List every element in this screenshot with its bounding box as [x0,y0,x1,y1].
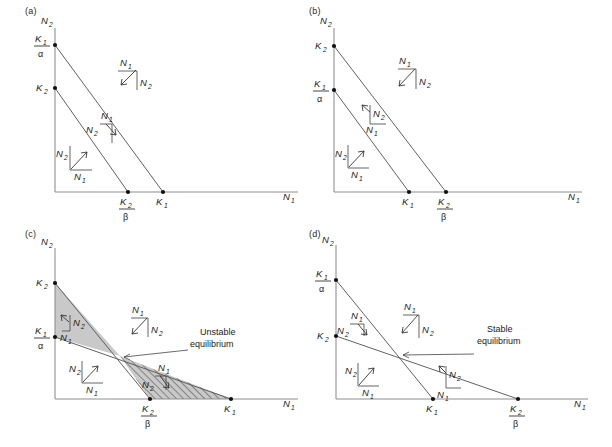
vector-widget-inside-both: N 2 N 1 [69,361,103,397]
y-axis-label: N 2 [320,15,332,28]
svg-text:K: K [510,403,517,414]
svg-text:K: K [156,196,163,207]
svg-text:K: K [317,330,324,341]
x-tick-k1: K 1 [156,196,168,209]
svg-text:1: 1 [359,316,363,323]
y-tick-k1-alpha: K 1 α [34,33,50,59]
svg-text:2: 2 [149,409,154,416]
intercept-k2-beta [148,397,152,401]
svg-text:N: N [142,379,149,390]
svg-text:N: N [335,148,342,159]
svg-text:1: 1 [374,130,378,137]
vector-widget-outside-both: N 1 N 2 [398,55,431,89]
svg-text:K: K [402,196,409,207]
svg-text:K: K [36,82,43,93]
panel-c-plot: N 2 N 1 K 2 K 1 α [0,223,306,447]
x-tick-k2-beta: K 2 β [141,403,157,429]
svg-text:2: 2 [48,21,53,28]
svg-text:N: N [86,384,93,395]
intercept-k1-alpha [332,88,336,92]
svg-text:2: 2 [93,130,98,137]
panel-a-letter: (a) [25,6,37,16]
x-tick-k2-beta: K 2 β [509,403,525,429]
x-axis-label: N 1 [283,398,295,411]
y-tick-k2: K 2 [315,40,327,53]
svg-text:N: N [86,124,93,135]
vector-widget-outside-both: N 1 N 2 [118,57,152,90]
intercept-k1 [431,397,435,401]
svg-text:2: 2 [517,409,522,416]
svg-text:2: 2 [342,154,347,161]
svg-text:2: 2 [48,242,53,249]
isocline-n1 [336,280,433,399]
svg-text:2: 2 [322,46,327,53]
svg-text:N: N [120,57,127,68]
y-tick-k1-alpha: K 1 α [34,325,50,351]
isocline-n1 [334,90,409,192]
x-axis-label: N 1 [574,398,586,411]
svg-text:β: β [145,419,150,429]
svg-text:2: 2 [158,330,163,337]
x-tick-k1: K 1 [426,403,438,416]
intercept-k2-beta [126,190,130,194]
panel-c: (c) N 2 N 1 [0,223,306,447]
svg-text:K: K [142,403,149,414]
svg-text:2: 2 [80,323,85,330]
shade-upper-wedge [55,283,120,356]
svg-text:2: 2 [344,331,349,338]
svg-text:K: K [120,196,127,207]
x-tick-k2-beta: K 2 β [119,196,135,222]
isocline-n2 [55,88,128,192]
svg-text:N: N [283,191,290,202]
svg-text:N: N [404,301,411,312]
y-axis-label: N 2 [41,236,53,249]
svg-text:N: N [419,76,426,87]
svg-text:2: 2 [149,385,154,392]
svg-text:α: α [38,49,43,59]
x-axis-label: N 1 [283,191,295,204]
svg-text:N: N [69,363,76,374]
svg-text:2: 2 [76,369,81,376]
svg-text:N: N [132,304,139,315]
svg-text:N: N [422,324,429,335]
svg-text:1: 1 [82,177,86,184]
y-axis-label: N 2 [322,234,334,247]
svg-text:2: 2 [43,88,48,95]
svg-text:2: 2 [445,202,450,209]
panel-d-letter: (d) [309,229,321,239]
x-tick-k1: K 1 [402,196,414,209]
svg-text:α: α [317,94,322,104]
y-tick-k2: K 2 [36,277,48,290]
svg-text:2: 2 [456,375,461,382]
y-tick-k2: K 2 [36,82,48,95]
svg-text:N: N [568,191,575,202]
svg-text:N: N [56,148,63,159]
svg-text:K: K [35,325,42,336]
y-tick-k1-alpha: K 1 α [313,78,329,104]
svg-text:equilibrium: equilibrium [477,336,521,346]
svg-text:1: 1 [232,409,236,416]
svg-text:2: 2 [324,336,329,343]
svg-text:N: N [437,389,444,400]
svg-text:N: N [74,171,81,182]
panel-b: (b) N 2 N 1 K 2 K [306,0,612,223]
svg-text:N: N [351,310,358,321]
svg-text:1: 1 [582,404,586,411]
svg-text:K: K [314,78,321,89]
svg-text:1: 1 [68,338,72,345]
svg-text:Unstable: Unstable [200,327,236,337]
svg-text:N: N [41,15,48,26]
svg-text:Stable: Stable [487,324,513,334]
svg-text:1: 1 [43,331,47,338]
intercept-k1-alpha [53,335,57,339]
intercept-k2-beta [444,190,448,194]
svg-text:α: α [38,341,43,351]
svg-text:K: K [316,268,323,279]
intercept-k1-alpha [334,278,338,282]
intercept-k2 [332,44,336,48]
svg-text:1: 1 [322,84,326,91]
y-tick-k1-alpha: K 1 α [315,268,331,294]
competition-isocline-figure: (a) N 2 N 1 K 1 [0,0,612,447]
svg-text:N: N [345,365,352,376]
unstable-equilibrium-annotation: Unstable equilibrium [124,327,236,360]
